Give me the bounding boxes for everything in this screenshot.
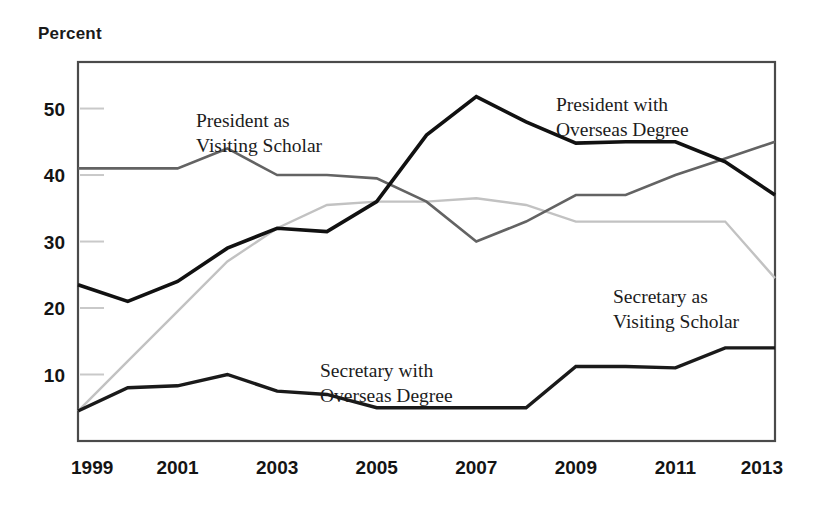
x-axis-tick-labels: 19992001200320052007200920112013 <box>71 457 783 478</box>
series-label-line: Secretary as <box>613 286 708 307</box>
y-tick-marks <box>80 109 104 375</box>
line-chart-svg: 1020304050 19992001200320052007200920112… <box>0 0 825 510</box>
series-label-line: Overseas Degree <box>320 385 453 406</box>
x-tick-label: 2011 <box>655 457 697 478</box>
series-label-president-with-overseas-degree: President withOverseas Degree <box>556 94 689 140</box>
y-tick-label: 20 <box>44 298 65 319</box>
y-axis-tick-labels: 1020304050 <box>44 99 65 386</box>
line-president-as-visiting-scholar <box>78 142 775 242</box>
series-label-line: Secretary with <box>320 360 433 381</box>
x-tick-label: 2009 <box>555 457 597 478</box>
x-tick-label: 2013 <box>741 457 783 478</box>
x-tick-label: 2005 <box>356 457 399 478</box>
x-tick-label: 2001 <box>156 457 199 478</box>
x-tick-label: 2003 <box>256 457 298 478</box>
series-label-line: President as <box>196 110 290 131</box>
y-tick-label: 50 <box>44 99 65 120</box>
x-tick-label: 2007 <box>455 457 497 478</box>
series-label-line: Overseas Degree <box>556 119 689 140</box>
series-label-line: Visiting Scholar <box>613 311 740 332</box>
series-label-secretary-as-visiting-scholar: Secretary asVisiting Scholar <box>613 286 740 332</box>
series-label-line: Visiting Scholar <box>196 135 323 156</box>
chart-container: Percent 1020304050 199920012003200520072… <box>0 0 825 510</box>
y-tick-label: 30 <box>44 232 65 253</box>
x-tick-label: 1999 <box>71 457 113 478</box>
y-tick-label: 40 <box>44 165 65 186</box>
series-label-president-as-visiting-scholar: President asVisiting Scholar <box>196 110 323 156</box>
series-label-line: President with <box>556 94 668 115</box>
series-label-secretary-with-overseas-degree: Secretary withOverseas Degree <box>320 360 453 406</box>
y-tick-label: 10 <box>44 365 65 386</box>
